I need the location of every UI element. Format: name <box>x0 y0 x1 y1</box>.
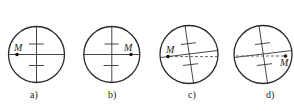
point-m-dot <box>15 53 19 57</box>
point-m-label: M <box>13 42 23 53</box>
point-m-dot <box>129 53 133 57</box>
upper-stadia-line <box>255 43 270 45</box>
point-m-dot <box>166 55 170 59</box>
upper-stadia-line <box>181 43 196 45</box>
point-m-label: M <box>279 57 289 68</box>
caption-b: b) <box>108 89 116 101</box>
panel-c: M c) <box>160 26 218 102</box>
panel-d: M d) <box>234 26 292 102</box>
caption-c: c) <box>188 89 196 101</box>
panel-b: M b) <box>84 27 140 102</box>
reticle-figure: M a) M b) M c) M d) <box>0 0 294 111</box>
point-m-label: M <box>165 44 175 55</box>
caption-d: d) <box>266 89 274 101</box>
caption-a: a) <box>30 89 38 101</box>
panel-a: M a) <box>9 27 65 102</box>
point-m-label: M <box>123 42 133 53</box>
